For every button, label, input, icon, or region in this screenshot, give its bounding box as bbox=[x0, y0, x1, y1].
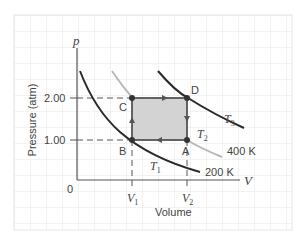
y-axis-symbol: p bbox=[72, 33, 80, 48]
point-a bbox=[184, 137, 190, 143]
y-tick-2: 2.00 bbox=[44, 92, 65, 104]
label-a: A bbox=[182, 145, 190, 157]
x-axis-label: Volume bbox=[155, 206, 192, 218]
point-b bbox=[129, 137, 135, 143]
label-400k: 400 K bbox=[227, 145, 256, 157]
label-b: B bbox=[119, 145, 126, 157]
label-d: D bbox=[191, 84, 199, 96]
point-c bbox=[129, 95, 135, 101]
cycle-area bbox=[132, 98, 187, 140]
label-c: C bbox=[119, 101, 127, 113]
origin-label: 0 bbox=[67, 183, 73, 195]
y-tick-1: 1.00 bbox=[44, 134, 65, 146]
y-axis-label: Pressure (atm) bbox=[26, 84, 38, 157]
pv-diagram: p V 0 Pressure (atm) 2.00 1.00 V1 V2 Vol… bbox=[0, 0, 308, 243]
point-d bbox=[184, 95, 190, 101]
label-200k: 200 K bbox=[205, 166, 234, 178]
